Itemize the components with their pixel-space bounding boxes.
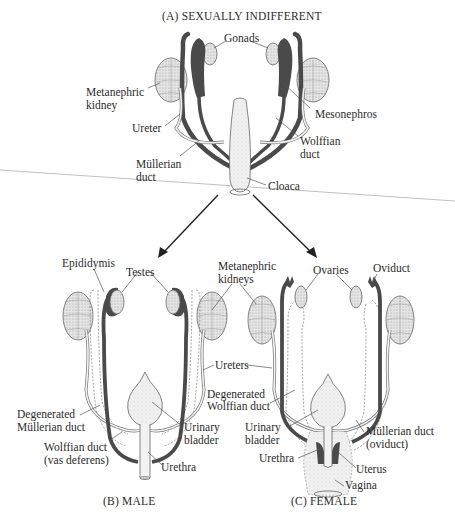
right-kidney-male: [197, 292, 227, 340]
left-vas-deferens: [104, 298, 139, 462]
label-ureters: Ureters: [215, 359, 249, 372]
label-urinary-bladder-female-line1: Urinary: [245, 421, 281, 434]
left-testis: [110, 290, 124, 314]
embryonic-reproductive-system-diagram: (A) SEXUALLY INDIFFERENT Gonads Metaneph…: [0, 0, 455, 519]
label-urethra-male: Urethra: [161, 461, 196, 474]
label-gonads: Gonads: [224, 32, 259, 45]
label-wolffian-duct-line1: Wolffian: [300, 135, 340, 148]
label-uterus: Uterus: [356, 463, 387, 476]
label-urinary-bladder-female-line2: bladder: [245, 434, 279, 447]
label-mullerian-duct-line2: duct: [136, 171, 156, 184]
right-wolffian-duct-a: [246, 96, 284, 166]
label-metanephric-kidneys-line2: kidneys: [218, 273, 254, 286]
label-degenerated-mullerian-line2: Müllerian duct: [17, 421, 85, 434]
label-testes: Testes: [126, 266, 155, 279]
right-ovary: [350, 286, 362, 308]
label-ureter: Ureter: [132, 122, 161, 135]
crease-line: [0, 170, 455, 201]
urethra-female: [324, 426, 332, 468]
panel-c-title: (C) FEMALE: [291, 495, 357, 507]
right-mesonephros: [278, 38, 293, 98]
label-epididymis: Epididymis: [62, 257, 115, 270]
label-mullerian-duct-line1: Müllerian: [136, 158, 181, 171]
label-metanephric-kidney-line1: Metanephric: [86, 86, 144, 99]
label-wolffian-duct-line2: duct: [300, 148, 320, 161]
panel-a-artwork: [155, 34, 329, 195]
label-urinary-bladder-male-line1: Urinary: [184, 421, 220, 434]
arrow-to-female: [253, 195, 312, 253]
label-mullerian-oviduct-line1: Müllerian duct: [366, 425, 434, 438]
arrow-to-male: [163, 195, 218, 253]
urinary-bladder-male: [128, 372, 163, 426]
arrows: [158, 195, 317, 258]
label-wolffian-vas-line1: Wolffian duct: [44, 441, 107, 454]
label-vagina: Vagina: [345, 479, 377, 492]
left-ovary: [295, 286, 307, 308]
left-mesonephros: [191, 38, 206, 98]
label-degenerated-mullerian-line1: Degenerated: [17, 408, 75, 421]
label-metanephric-kidneys-line1: Metanephric: [218, 260, 276, 273]
right-testis: [166, 290, 180, 314]
label-wolffian-vas-line2: (vas deferens): [44, 454, 109, 467]
label-metanephric-kidney-line2: kidney: [86, 99, 117, 112]
label-cloaca: Cloaca: [268, 180, 300, 193]
urethra-male: [140, 424, 150, 480]
left-oviduct: [282, 282, 310, 442]
label-degenerated-wolffian-line1: Degenerated: [207, 388, 265, 401]
label-urinary-bladder-male-line2: bladder: [184, 434, 218, 447]
left-kidney-male: [63, 292, 93, 340]
label-degenerated-wolffian-line2: Wolffian duct: [207, 400, 270, 413]
right-vas-deferens: [152, 298, 187, 462]
label-mullerian-oviduct-line2: (oviduct): [366, 438, 408, 451]
urinary-bladder-female: [311, 374, 346, 428]
label-ovaries: Ovaries: [313, 264, 349, 277]
panel-b-title: (B) MALE: [103, 495, 155, 507]
label-oviduct: Oviduct: [373, 262, 410, 275]
panel-a-title: (A) SEXUALLY INDIFFERENT: [162, 10, 322, 22]
label-urethra-female: Urethra: [259, 452, 294, 465]
label-mesonephros: Mesonephros: [315, 108, 377, 121]
